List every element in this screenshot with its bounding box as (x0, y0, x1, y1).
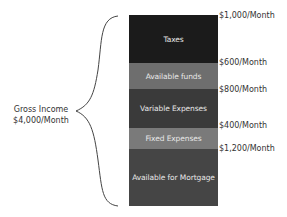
segment-label: Fixed Expenses (145, 134, 201, 143)
amount-variable-expenses: $800/Month (219, 85, 267, 94)
segment-label: Available for Mortgage (132, 173, 215, 182)
gross-income-label: Gross Income $4,000/Month (6, 104, 76, 126)
segment-available-for-mortgage: Available for Mortgage (129, 149, 218, 206)
gross-income-title: Gross Income (6, 104, 76, 115)
income-breakdown-bar: Taxes Available funds Variable Expenses … (129, 15, 218, 206)
amount-taxes: $1,000/Month (219, 11, 275, 20)
segment-label: Available funds (146, 72, 202, 81)
segment-label: Variable Expenses (140, 104, 207, 113)
segment-label: Taxes (163, 35, 183, 44)
segment-variable-expenses: Variable Expenses (129, 89, 218, 128)
amount-available-for-mortgage: $1,200/Month (219, 144, 275, 153)
gross-income-amount: $4,000/Month (6, 115, 76, 126)
segment-available-funds: Available funds (129, 63, 218, 89)
segment-fixed-expenses: Fixed Expenses (129, 128, 218, 149)
amount-available-funds: $600/Month (219, 58, 267, 67)
amount-fixed-expenses: $400/Month (219, 121, 267, 130)
segment-taxes: Taxes (129, 15, 218, 63)
